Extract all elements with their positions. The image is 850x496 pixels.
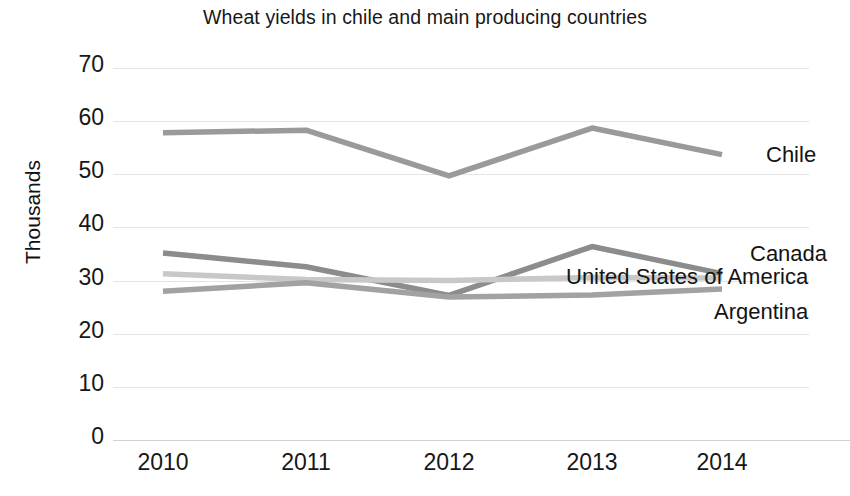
y-tick-label: 40 (44, 212, 104, 235)
x-tick-label: 2011 (281, 449, 330, 476)
y-tick-label: 20 (44, 319, 104, 342)
y-tick-label: 60 (44, 106, 104, 129)
x-tick-label: 2012 (423, 449, 474, 476)
series-label-canada: Canada (750, 243, 827, 265)
line-chart: Wheat yields in chile and main producing… (0, 0, 850, 496)
y-tick-label: 30 (44, 266, 104, 289)
x-tick-label: 2010 (137, 449, 188, 476)
x-axis-line (113, 440, 850, 441)
series-label-united-states-of-america: United States of America (566, 266, 808, 288)
plot-area (113, 0, 850, 496)
y-tick-label: 70 (44, 53, 104, 76)
y-axis-ticks: 010203040506070 (0, 0, 104, 496)
x-tick-label: 2013 (566, 449, 617, 476)
y-tick-label: 10 (44, 372, 104, 395)
series-label-argentina: Argentina (714, 301, 808, 323)
y-tick-label: 0 (44, 425, 104, 448)
y-tick-label: 50 (44, 159, 104, 182)
x-tick-label: 2014 (696, 449, 747, 476)
series-lines (113, 0, 850, 496)
series-label-chile: Chile (766, 144, 816, 166)
series-line-chile (163, 128, 722, 176)
